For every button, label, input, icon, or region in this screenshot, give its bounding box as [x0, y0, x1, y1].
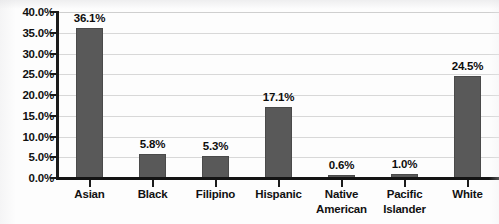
x-axis-category-label: Hispanic: [245, 187, 313, 202]
gridline: [58, 33, 499, 34]
y-axis-tick-mark: [50, 53, 57, 55]
bar: [454, 76, 481, 178]
y-axis-tick-label: 40.0%: [0, 6, 54, 18]
x-axis-tick-mark: [215, 180, 217, 187]
bar: [202, 156, 229, 178]
bar-value-label: 0.6%: [310, 159, 374, 171]
y-axis-tick-mark: [50, 94, 57, 96]
category-label-line: Filipino: [182, 187, 250, 202]
y-axis-tick-mark: [50, 11, 57, 13]
chart-title-cropped: [0, 0, 499, 7]
x-axis-tick-mark: [404, 180, 406, 187]
y-axis-tick-label: 5.0%: [0, 151, 54, 163]
y-axis-tick-label: 25.0%: [0, 68, 54, 80]
category-label-line: Asian: [56, 187, 124, 202]
gridline: [58, 74, 499, 75]
gridline: [58, 12, 499, 13]
x-axis-category-label: NativeAmerican: [308, 187, 376, 217]
bar-value-label: 5.3%: [184, 140, 248, 152]
x-axis-tick-mark: [152, 180, 154, 187]
y-axis-tick-mark: [50, 73, 57, 75]
y-axis-tick-label: 10.0%: [0, 131, 54, 143]
y-axis-tick-label: 30.0%: [0, 48, 54, 60]
category-label-line: Hispanic: [245, 187, 313, 202]
bar-value-label: 1.0%: [373, 158, 437, 170]
x-axis-tick-mark: [89, 180, 91, 187]
y-axis-tick-mark: [50, 115, 57, 117]
y-axis-tick-label: 0.0%: [0, 172, 54, 184]
category-label-line: Islander: [371, 202, 439, 217]
bar-value-label: 36.1%: [58, 12, 122, 24]
x-axis-tick-mark: [467, 180, 469, 187]
category-label-line: Native: [308, 187, 376, 202]
bar: [76, 28, 103, 178]
y-axis-tick-labels: 0.0%5.0%10.0%15.0%20.0%25.0%30.0%35.0%40…: [0, 0, 54, 224]
category-label-line: Pacific: [371, 187, 439, 202]
bar-value-label: 5.8%: [121, 138, 185, 150]
y-axis-tick-label: 20.0%: [0, 89, 54, 101]
y-axis-tick-mark: [50, 136, 57, 138]
bar-chart: 0.0%5.0%10.0%15.0%20.0%25.0%30.0%35.0%40…: [0, 0, 499, 224]
y-axis-tick-label: 15.0%: [0, 110, 54, 122]
x-axis-category-label: White: [434, 187, 499, 202]
bar-value-label: 17.1%: [247, 91, 311, 103]
category-label-line: Black: [119, 187, 187, 202]
x-axis-category-label: Black: [119, 187, 187, 202]
x-axis-tick-mark: [278, 180, 280, 187]
category-label-line: American: [308, 202, 376, 217]
gridline: [58, 54, 499, 55]
x-axis-category-label: PacificIslander: [371, 187, 439, 217]
bar: [265, 107, 292, 178]
category-label-line: White: [434, 187, 499, 202]
y-axis-tick-label: 35.0%: [0, 27, 54, 39]
y-axis-tick-mark: [50, 177, 57, 179]
x-axis-category-label: Filipino: [182, 187, 250, 202]
y-axis-tick-mark: [50, 32, 57, 34]
x-axis-tick-mark: [341, 180, 343, 187]
bar-value-label: 24.5%: [436, 60, 499, 72]
x-axis-category-label: Asian: [56, 187, 124, 202]
y-axis-tick-mark: [50, 156, 57, 158]
bar: [139, 154, 166, 178]
